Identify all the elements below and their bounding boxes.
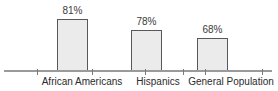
axis-tick-5 bbox=[205, 69, 206, 75]
axis-tick-3 bbox=[145, 69, 146, 75]
axis-baseline bbox=[4, 70, 272, 72]
bar-african-americans bbox=[57, 19, 88, 71]
bar-chart: 81% 78% 68% African Americans Hispanics … bbox=[0, 0, 278, 91]
category-label-general-population: General Population bbox=[185, 76, 277, 88]
axis-tick-2 bbox=[92, 69, 93, 75]
bar-value-african-americans: 81% bbox=[50, 5, 95, 16]
category-label-african-americans: African Americans bbox=[33, 76, 131, 88]
bar-value-general-population: 68% bbox=[190, 24, 235, 35]
axis-tick-6 bbox=[262, 69, 263, 75]
bar-value-hispanics: 78% bbox=[124, 16, 169, 27]
bar-hispanics bbox=[131, 30, 162, 71]
bar-general-population bbox=[197, 38, 228, 71]
axis-tick-1 bbox=[37, 69, 38, 75]
axis-tick-4 bbox=[183, 69, 184, 75]
clipped-title-remnant bbox=[0, 0, 278, 3]
category-label-hispanics: Hispanics bbox=[130, 76, 186, 88]
